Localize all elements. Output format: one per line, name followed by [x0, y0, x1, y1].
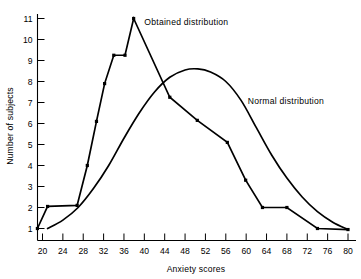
data-point-marker — [46, 205, 49, 208]
x-tick-label: 20 — [38, 246, 48, 256]
data-point-marker — [168, 96, 171, 99]
x-tick-label: 56 — [221, 246, 231, 256]
x-tick-label: 60 — [241, 246, 251, 256]
data-point-marker — [36, 227, 39, 230]
data-point-marker — [76, 204, 79, 207]
x-tick-label: 28 — [78, 246, 88, 256]
x-tick-label: 64 — [262, 246, 272, 256]
data-point-marker — [112, 54, 115, 57]
x-tick-label: 72 — [302, 246, 312, 256]
x-tick-label: 40 — [140, 246, 150, 256]
y-tick-label: 4 — [28, 161, 33, 171]
data-point-marker — [86, 164, 89, 167]
series-path — [37, 19, 348, 230]
x-axis-title: Anxiety scores — [167, 264, 226, 274]
y-tick-label: 1 — [28, 224, 33, 234]
x-tick-label: 36 — [119, 246, 129, 256]
series-path — [48, 69, 348, 230]
data-point-markers — [36, 17, 350, 231]
data-series — [37, 19, 348, 230]
data-point-marker — [244, 179, 247, 182]
y-tick-label: 3 — [28, 182, 33, 192]
x-axis-ticks — [43, 234, 349, 241]
y-tick-label: 9 — [28, 56, 33, 66]
y-tick-label: 7 — [28, 98, 33, 108]
chart-container: 1234567891011 20242832364044485256606468… — [0, 0, 361, 279]
x-tick-label: 76 — [323, 246, 333, 256]
data-point-marker — [226, 141, 229, 144]
x-tick-label: 44 — [160, 246, 170, 256]
data-point-marker — [196, 119, 199, 122]
data-point-marker — [123, 54, 126, 57]
x-tick-label: 24 — [58, 246, 68, 256]
x-tick-label: 80 — [343, 246, 353, 256]
series-annotations: Obtained distributionNormal distribution — [144, 17, 324, 107]
frequency-distribution-chart: 1234567891011 20242832364044485256606468… — [0, 0, 361, 279]
x-tick-label: 52 — [201, 246, 211, 256]
axes — [38, 14, 357, 241]
y-tick-label: 5 — [28, 140, 33, 150]
y-axis-tick-labels: 1234567891011 — [23, 14, 33, 234]
y-axis-ticks — [38, 19, 45, 229]
series-annotation-label: Normal distribution — [248, 96, 324, 106]
data-point-marker — [261, 206, 264, 209]
series-annotation-label: Obtained distribution — [144, 17, 228, 27]
x-tick-label: 68 — [282, 246, 292, 256]
x-tick-label: 32 — [99, 246, 109, 256]
y-axis-title: Number of subjects — [5, 87, 15, 165]
data-point-marker — [132, 17, 135, 20]
data-point-marker — [285, 206, 288, 209]
y-tick-label: 10 — [23, 35, 33, 45]
data-point-marker — [316, 227, 319, 230]
y-tick-label: 6 — [28, 119, 33, 129]
data-point-marker — [95, 120, 98, 123]
y-tick-label: 2 — [28, 203, 33, 213]
x-axis-tick-labels: 20242832364044485256606468727680 — [38, 246, 353, 256]
data-point-marker — [103, 82, 106, 85]
data-point-marker — [346, 228, 349, 231]
y-tick-label: 8 — [28, 77, 33, 87]
x-tick-label: 48 — [180, 246, 190, 256]
y-tick-label: 11 — [24, 14, 33, 24]
